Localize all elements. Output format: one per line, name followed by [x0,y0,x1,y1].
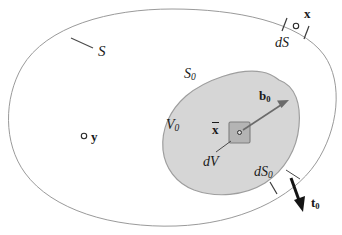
label-inner-volume-base: V [166,117,175,132]
label-inner-surface-element-subscript: 0 [268,170,273,180]
label-surface-element: dS [275,36,289,50]
figure-container: S x dS S0 V0 x b0 dV dS0 t0 y [0,0,342,235]
label-inner-surface: S0 [184,67,196,83]
label-field-point-x: x [304,7,311,20]
volume-element-center-marker [238,131,242,135]
label-body-force-vector: b0 [259,89,271,103]
label-centroid-x-bar: x [212,123,219,136]
label-inner-volume: V0 [166,118,179,134]
label-source-point-y: y [91,130,98,143]
tick-mark-ds-right [304,26,309,39]
label-inner-surface-subscript: 0 [191,72,196,82]
label-inner-volume-subscript: 0 [175,123,180,133]
label-inner-surface-base: S [184,66,191,81]
label-body-force-subscript: 0 [266,94,270,104]
label-inner-surface-element: dS0 [254,165,273,181]
label-inner-surface-element-base: dS [254,164,268,179]
label-outer-surface: S [98,44,106,59]
label-traction-subscript: 0 [315,201,319,211]
label-traction-vector: t0 [311,196,320,210]
label-centroid-x-bar-text: x [212,123,219,136]
point-marker-x [293,23,298,28]
label-volume-element: dV [203,155,219,169]
point-marker-y [81,133,86,138]
